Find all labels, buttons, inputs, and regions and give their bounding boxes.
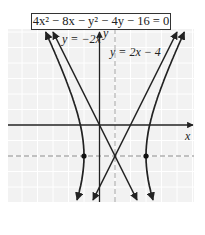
- y-axis-label: y: [103, 27, 108, 39]
- vertex-point: [143, 153, 148, 158]
- vertex-point: [81, 153, 86, 158]
- asymptote-left-label: y = −2x: [62, 33, 101, 45]
- equation-box: 4x² − 8x − y² − 4y − 16 = 0: [31, 13, 171, 30]
- asymptote-right-label: y = 2x − 4: [110, 46, 161, 58]
- x-axis-label: x: [185, 130, 190, 142]
